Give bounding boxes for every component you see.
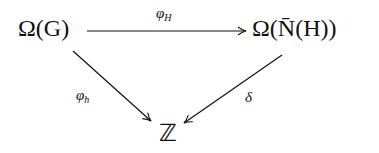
label-phi-h-sub: h	[84, 94, 89, 105]
node-integers-Z: ℤ	[159, 121, 177, 145]
label-phi-H-sub: H	[164, 12, 171, 23]
label-phi-H: φH	[156, 6, 172, 23]
arrow-phi-h	[73, 51, 151, 121]
label-phi-h: φh	[76, 88, 89, 105]
node-omega-N-bar-H: Ω(N̄(H))	[252, 16, 336, 40]
commutative-diagram: Ω(G) Ω(N̄(H)) ℤ φH φh δ	[0, 0, 379, 153]
arrow-delta	[184, 55, 282, 123]
node-omega-G: Ω(G)	[18, 16, 69, 40]
label-delta: δ	[245, 90, 252, 105]
label-delta-base: δ	[245, 89, 252, 105]
